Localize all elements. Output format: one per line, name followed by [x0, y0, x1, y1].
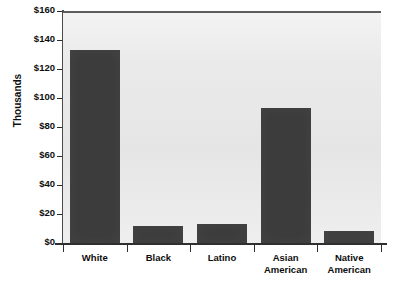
- bar-chart: Thousands $0$20$40$60$80$100$120$140$160…: [0, 0, 394, 282]
- x-axis-category-label: NativeAmerican: [317, 252, 381, 275]
- bar: [133, 226, 183, 243]
- x-axis-tick-mark: [381, 245, 382, 252]
- y-axis-tick-label: $120: [17, 62, 55, 73]
- x-axis-category-label-line: Asian: [254, 252, 318, 264]
- x-axis-tick-mark: [190, 245, 191, 252]
- bar: [261, 108, 311, 243]
- x-axis-category-label-line: Black: [127, 252, 191, 264]
- y-axis-tick-labels: $0$20$40$60$80$100$120$140$160: [17, 9, 55, 243]
- bar: [324, 231, 374, 243]
- y-axis-tick-label: $140: [17, 33, 55, 44]
- x-axis-category-label-line: American: [317, 264, 381, 276]
- x-axis-category-label: White: [63, 252, 127, 264]
- x-axis-category-label-line: Latino: [190, 252, 254, 264]
- y-axis-tick-label: $100: [17, 91, 55, 102]
- x-axis-category-label: AsianAmerican: [254, 252, 318, 275]
- y-axis-tick-label: $80: [17, 120, 55, 131]
- x-axis-tick-mark: [317, 245, 318, 252]
- x-axis-category-label-line: American: [254, 264, 318, 276]
- y-axis-tick-label: $20: [17, 207, 55, 218]
- bar: [197, 224, 247, 243]
- x-axis-category-label: Latino: [190, 252, 254, 264]
- x-axis-tick-mark: [254, 245, 255, 252]
- x-axis-category-labels: WhiteBlackLatinoAsianAmericanNativeAmeri…: [63, 252, 381, 282]
- x-axis-category-label-line: Native: [317, 252, 381, 264]
- y-axis-tick-label: $40: [17, 178, 55, 189]
- bars-group: [63, 11, 381, 243]
- x-axis-category-label: Black: [127, 252, 191, 264]
- y-axis-tick-label: $160: [17, 4, 55, 15]
- y-axis-tick-label: $60: [17, 149, 55, 160]
- x-axis-category-label-line: White: [63, 252, 127, 264]
- bar: [70, 50, 120, 243]
- x-axis-tick-mark: [127, 245, 128, 252]
- x-axis-tick-mark: [63, 245, 64, 252]
